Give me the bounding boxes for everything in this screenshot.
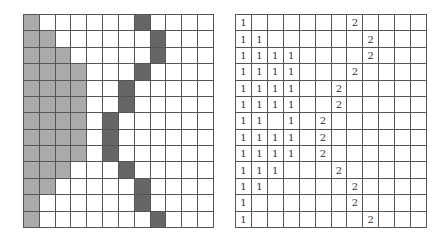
empty-cell (316, 162, 332, 178)
dark-cell (103, 146, 119, 162)
empty-cell (363, 97, 379, 113)
empty-cell (119, 146, 135, 162)
empty-cell (103, 81, 119, 97)
empty-cell (198, 64, 214, 80)
empty-cell (56, 179, 72, 195)
empty-cell (268, 15, 284, 31)
light-cell (40, 146, 56, 162)
empty-cell (71, 162, 87, 178)
empty-cell (347, 113, 363, 129)
empty-cell (166, 64, 182, 80)
empty-cell (198, 195, 214, 211)
empty-cell (300, 212, 316, 228)
empty-cell (151, 113, 167, 129)
light-cell (71, 130, 87, 146)
empty-cell (379, 130, 395, 146)
empty-cell (332, 64, 348, 80)
empty-cell (182, 162, 198, 178)
label-cell: 1 (252, 162, 268, 178)
empty-cell (252, 212, 268, 228)
empty-cell (87, 179, 103, 195)
empty-cell (119, 113, 135, 129)
empty-cell (103, 15, 119, 31)
empty-cell (103, 212, 119, 228)
label-cell: 1 (252, 64, 268, 80)
empty-cell (87, 130, 103, 146)
label-cell: 2 (347, 179, 363, 195)
empty-cell (182, 81, 198, 97)
empty-cell (166, 97, 182, 113)
empty-cell (166, 179, 182, 195)
empty-cell (182, 97, 198, 113)
empty-cell (103, 195, 119, 211)
label-cell: 1 (236, 97, 252, 113)
empty-cell (395, 15, 411, 31)
empty-cell (56, 195, 72, 211)
empty-cell (411, 179, 427, 195)
empty-cell (40, 15, 56, 31)
label-cell: 1 (236, 146, 252, 162)
empty-cell (411, 81, 427, 97)
empty-cell (284, 15, 300, 31)
empty-cell (347, 81, 363, 97)
light-cell (24, 146, 40, 162)
empty-cell (411, 97, 427, 113)
light-cell (56, 64, 72, 80)
empty-cell (284, 212, 300, 228)
empty-cell (198, 15, 214, 31)
light-cell (24, 130, 40, 146)
label-cell: 1 (252, 81, 268, 97)
label-cell: 1 (268, 130, 284, 146)
light-cell (40, 81, 56, 97)
empty-cell (119, 48, 135, 64)
empty-cell (198, 179, 214, 195)
empty-cell (87, 64, 103, 80)
label-cell: 1 (268, 48, 284, 64)
empty-cell (395, 146, 411, 162)
empty-cell (316, 212, 332, 228)
empty-cell (87, 113, 103, 129)
empty-cell (395, 195, 411, 211)
empty-cell (87, 146, 103, 162)
empty-cell (182, 48, 198, 64)
empty-cell (284, 179, 300, 195)
light-cell (24, 31, 40, 47)
label-cell: 1 (268, 97, 284, 113)
empty-cell (395, 81, 411, 97)
light-cell (24, 48, 40, 64)
light-cell (71, 146, 87, 162)
label-cell: 2 (332, 97, 348, 113)
empty-cell (87, 97, 103, 113)
empty-cell (363, 162, 379, 178)
empty-cell (363, 179, 379, 195)
empty-cell (379, 162, 395, 178)
empty-cell (347, 212, 363, 228)
light-cell (71, 97, 87, 113)
empty-cell (182, 64, 198, 80)
empty-cell (71, 212, 87, 228)
empty-cell (182, 179, 198, 195)
empty-cell (268, 113, 284, 129)
empty-cell (347, 146, 363, 162)
empty-cell (268, 195, 284, 211)
empty-cell (347, 130, 363, 146)
empty-cell (395, 212, 411, 228)
empty-cell (135, 81, 151, 97)
empty-cell (411, 162, 427, 178)
empty-cell (119, 31, 135, 47)
light-cell (24, 15, 40, 31)
light-cell (24, 195, 40, 211)
empty-cell (166, 48, 182, 64)
empty-cell (182, 113, 198, 129)
light-cell (56, 97, 72, 113)
light-cell (40, 97, 56, 113)
label-cell: 1 (252, 48, 268, 64)
label-cell: 1 (236, 212, 252, 228)
light-cell (56, 162, 72, 178)
empty-cell (87, 48, 103, 64)
label-cell: 1 (252, 179, 268, 195)
empty-cell (332, 113, 348, 129)
empty-cell (135, 113, 151, 129)
empty-cell (411, 195, 427, 211)
empty-cell (363, 130, 379, 146)
